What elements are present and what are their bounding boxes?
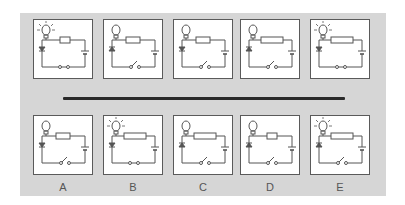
bulb-icon bbox=[42, 121, 50, 134]
option-label-c: C bbox=[173, 181, 233, 193]
circuit-diagram-icon bbox=[104, 20, 162, 78]
circuit-diagram-icon bbox=[311, 116, 369, 174]
resistor-icon bbox=[331, 37, 353, 43]
resistor-icon bbox=[126, 37, 140, 43]
bulb-icon bbox=[112, 25, 120, 38]
circuit-diagram-icon bbox=[241, 20, 299, 78]
option-label-e: E bbox=[310, 181, 370, 193]
bulb-icon bbox=[249, 121, 257, 134]
resistor-icon bbox=[56, 133, 70, 139]
row-divider bbox=[63, 97, 345, 100]
option-circuit-4 bbox=[240, 115, 300, 175]
top-circuit-3 bbox=[173, 19, 233, 79]
option-circuit-1 bbox=[33, 115, 93, 175]
resistor-icon bbox=[261, 37, 283, 43]
top-circuit-5 bbox=[310, 19, 370, 79]
circuit-diagram-icon bbox=[104, 116, 162, 174]
bulb-icon bbox=[314, 117, 332, 134]
circuit-diagram-icon bbox=[34, 116, 92, 174]
bulb-icon bbox=[107, 117, 125, 134]
top-circuit-2 bbox=[103, 19, 163, 79]
bulb-icon bbox=[182, 121, 190, 134]
option-label-b: B bbox=[103, 181, 163, 193]
resistor-icon bbox=[194, 133, 216, 139]
resistor-icon bbox=[60, 37, 70, 43]
bulb-icon bbox=[314, 21, 332, 38]
option-label-a: A bbox=[33, 181, 93, 193]
option-circuit-3 bbox=[173, 115, 233, 175]
resistor-icon bbox=[331, 133, 353, 139]
option-circuit-5 bbox=[310, 115, 370, 175]
bulb-icon bbox=[249, 25, 257, 38]
option-circuit-2 bbox=[103, 115, 163, 175]
resistor-icon bbox=[196, 37, 210, 43]
option-label-d: D bbox=[240, 181, 300, 193]
resistor-icon bbox=[267, 133, 277, 139]
circuit-diagram-icon bbox=[174, 116, 232, 174]
circuit-diagram-icon bbox=[34, 20, 92, 78]
circuit-diagram-icon bbox=[241, 116, 299, 174]
resistor-icon bbox=[124, 133, 146, 139]
circuit-diagram-icon bbox=[174, 20, 232, 78]
top-circuit-4 bbox=[240, 19, 300, 79]
top-circuit-1 bbox=[33, 19, 93, 79]
bulb-icon bbox=[37, 21, 55, 38]
bulb-icon bbox=[182, 25, 190, 38]
circuit-diagram-icon bbox=[311, 20, 369, 78]
